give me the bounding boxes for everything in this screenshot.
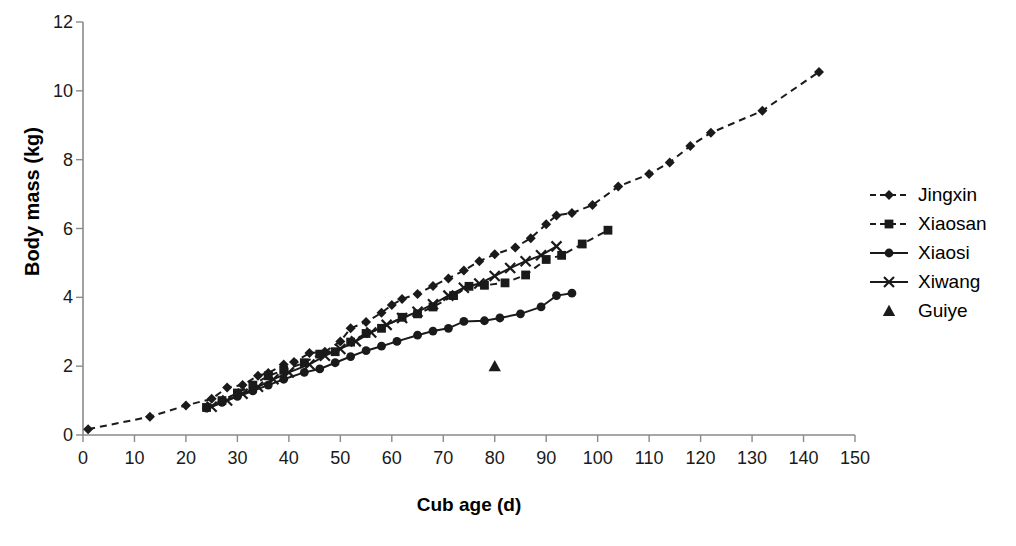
- marker-diamond: [145, 412, 155, 422]
- series-xiaosi: [202, 289, 576, 413]
- marker-square: [557, 251, 566, 260]
- legend-label: Xiaosan: [910, 213, 987, 235]
- marker-circle: [377, 342, 386, 351]
- legend-marker-diamond-icon: [868, 185, 910, 205]
- legend-item-xiaosi[interactable]: Xiaosi: [868, 238, 987, 267]
- marker-circle: [429, 327, 438, 336]
- legend-item-guiye[interactable]: Guiye: [868, 296, 987, 325]
- marker-diamond: [428, 281, 438, 291]
- x-tick-label: 30: [217, 449, 257, 467]
- marker-diamond: [304, 348, 314, 358]
- marker-diamond: [413, 289, 423, 299]
- legend-item-xiwang[interactable]: Xiwang: [868, 267, 987, 296]
- marker-circle: [495, 314, 504, 323]
- marker-diamond: [706, 128, 716, 138]
- marker-circle: [459, 317, 468, 326]
- series-guiye: [489, 360, 501, 371]
- x-tick-label: 0: [63, 449, 103, 467]
- marker-diamond: [397, 294, 407, 304]
- x-tick-label: 130: [732, 449, 772, 467]
- legend-label: Guiye: [910, 300, 968, 322]
- legend-label: Xiaosi: [910, 242, 970, 264]
- marker-circle: [537, 303, 546, 312]
- x-tick-label: 10: [114, 449, 154, 467]
- legend-marker-square-icon: [868, 214, 910, 234]
- x-axis-title: Cub age (d): [83, 494, 855, 516]
- chart-legend: JingxinXiaosanXiaosiXiwangGuiye: [868, 180, 987, 325]
- x-tick-label: 50: [320, 449, 360, 467]
- marker-diamond: [361, 317, 371, 327]
- x-tick-label: 60: [372, 449, 412, 467]
- marker-circle: [480, 316, 489, 325]
- marker-diamond: [222, 383, 232, 393]
- marker-circle: [362, 346, 371, 355]
- x-tick-label: 150: [835, 449, 875, 467]
- marker-diamond: [510, 242, 520, 252]
- x-tick-label: 70: [423, 449, 463, 467]
- marker-diamond: [665, 157, 675, 167]
- marker-diamond: [567, 208, 577, 218]
- marker-diamond: [238, 380, 248, 390]
- marker-circle: [346, 352, 355, 361]
- marker-circle: [885, 248, 894, 257]
- marker-circle: [444, 324, 453, 333]
- x-tick-label: 20: [166, 449, 206, 467]
- series-jingxin: [83, 67, 824, 434]
- x-tick-label: 90: [526, 449, 566, 467]
- marker-diamond: [83, 424, 93, 434]
- marker-square: [604, 226, 613, 235]
- marker-triangle: [883, 304, 895, 315]
- legend-marker-cross-icon: [868, 272, 910, 292]
- marker-diamond: [459, 265, 469, 275]
- legend-label: Xiwang: [910, 271, 980, 293]
- x-tick-label: 140: [784, 449, 824, 467]
- legend-item-xiaosan[interactable]: Xiaosan: [868, 209, 987, 238]
- legend-marker-triangle-icon: [868, 301, 910, 321]
- marker-circle: [516, 309, 525, 318]
- marker-diamond: [490, 249, 500, 259]
- x-tick-label: 100: [578, 449, 618, 467]
- marker-square: [578, 240, 587, 249]
- legend-item-jingxin[interactable]: Jingxin: [868, 180, 987, 209]
- legend-marker-circle-icon: [868, 243, 910, 263]
- marker-square: [521, 271, 530, 280]
- series-line: [88, 72, 819, 429]
- x-tick-label: 120: [681, 449, 721, 467]
- marker-circle: [393, 337, 402, 346]
- legend-label: Jingxin: [910, 184, 977, 206]
- marker-circle: [552, 291, 561, 300]
- marker-square: [501, 278, 510, 287]
- series-xiwang: [207, 241, 562, 411]
- chart-container: Body mass (kg) 024681012 010203040506070…: [0, 0, 1016, 546]
- marker-diamond: [644, 169, 654, 179]
- x-tick-label: 40: [269, 449, 309, 467]
- x-axis-tick-labels: 0102030405060708090100110120130140150: [0, 449, 1016, 479]
- marker-circle: [331, 358, 340, 367]
- marker-circle: [568, 289, 577, 298]
- marker-triangle: [489, 360, 501, 371]
- marker-diamond: [474, 256, 484, 266]
- x-tick-label: 110: [629, 449, 669, 467]
- x-tick-label: 80: [475, 449, 515, 467]
- marker-diamond: [884, 190, 894, 200]
- marker-circle: [413, 331, 422, 340]
- marker-diamond: [443, 273, 453, 283]
- marker-circle: [315, 365, 324, 374]
- marker-square: [885, 219, 894, 228]
- marker-diamond: [181, 400, 191, 410]
